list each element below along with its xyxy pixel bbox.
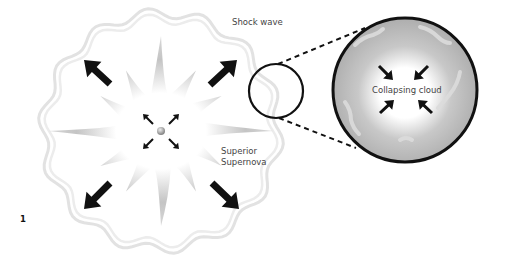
arrow-icon	[203, 52, 244, 92]
arrow-icon	[77, 176, 118, 217]
superior-supernova-label-line2: Supernova	[221, 157, 267, 167]
shock-wave-label: Shock wave	[232, 17, 283, 27]
superior-supernova-label-line1: Superior	[221, 146, 257, 156]
supernova-diagram	[0, 0, 508, 275]
collapsing-cloud-label: Collapsing cloud	[372, 85, 442, 95]
supernova-star	[157, 127, 165, 135]
figure-number: 1	[20, 214, 26, 224]
